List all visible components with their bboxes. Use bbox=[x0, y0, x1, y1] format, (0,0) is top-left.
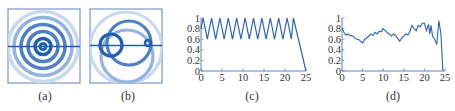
y-tick-label: 0.6 bbox=[328, 34, 341, 45]
caption-d: (d) bbox=[378, 89, 408, 104]
caption-c: (c) bbox=[237, 89, 267, 104]
caption-b: (b) bbox=[113, 89, 143, 104]
x-tick-label: 15 bbox=[259, 72, 270, 83]
x-tick-label: 10 bbox=[378, 72, 389, 83]
y-tick-label: 0.4 bbox=[187, 44, 201, 55]
y-tick-label: 0.2 bbox=[187, 55, 200, 66]
y-tick-label: 0 bbox=[195, 66, 200, 77]
chart-c-line bbox=[201, 18, 306, 71]
y-tick-label: 0 bbox=[336, 66, 341, 77]
x-tick-label: 25 bbox=[301, 72, 312, 83]
y-tick-label: 0.4 bbox=[328, 44, 342, 55]
x-tick-label: 5 bbox=[219, 72, 224, 83]
x-tick-label: 15 bbox=[399, 72, 410, 83]
y-tick-label: 1 bbox=[336, 13, 341, 24]
y-tick-label: 0.6 bbox=[187, 34, 200, 45]
caption-a: (a) bbox=[30, 89, 60, 104]
panel-b-rings bbox=[90, 12, 162, 84]
panel-b-diagram bbox=[0, 0, 170, 88]
x-tick-label: 20 bbox=[280, 72, 291, 83]
x-tick-label: 5 bbox=[360, 72, 365, 83]
chart-c: 051015202500.20.40.60.81 bbox=[175, 0, 315, 88]
x-tick-label: 20 bbox=[419, 72, 430, 83]
chart-d: 051015202500.20.40.60.81 bbox=[315, 0, 455, 88]
x-tick-label: 25 bbox=[440, 72, 451, 83]
y-tick-label: 1 bbox=[195, 13, 200, 24]
y-tick-label: 0.2 bbox=[328, 55, 341, 66]
y-tick-label: 0.8 bbox=[328, 23, 341, 34]
x-tick-label: 10 bbox=[238, 72, 249, 83]
y-tick-label: 0.8 bbox=[187, 23, 200, 34]
chart-d-axes: 051015202500.20.40.60.81 bbox=[328, 13, 450, 84]
chart-d-line bbox=[342, 21, 443, 71]
